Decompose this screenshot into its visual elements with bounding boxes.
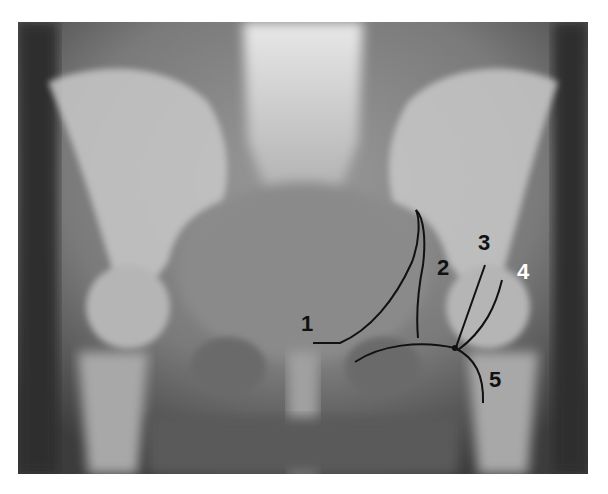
annotation-line-5 [355, 344, 483, 403]
annotation-line-4 [458, 280, 502, 350]
label-5: 5 [489, 369, 501, 391]
label-3: 3 [478, 232, 490, 254]
annotation-line-2 [416, 210, 424, 338]
label-1: 1 [301, 313, 313, 335]
annotation-lines [0, 0, 608, 494]
label-2: 2 [437, 257, 449, 279]
label-4: 4 [517, 261, 529, 283]
annotation-line-3 [455, 265, 485, 350]
annotation-junction [452, 345, 458, 351]
annotation-line-1 [313, 210, 419, 343]
